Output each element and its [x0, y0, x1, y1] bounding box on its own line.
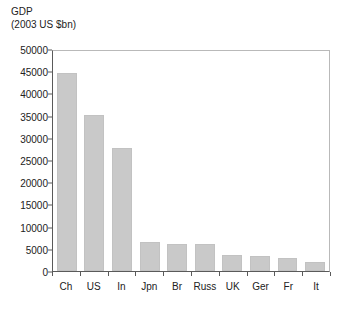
- x-axis-labels: ChUSInJpnBrRussUKGerFrIt: [52, 281, 330, 292]
- bar-russ: [195, 244, 215, 271]
- y-axis-tick-mark: [48, 249, 52, 250]
- page-title: GDP: [11, 5, 76, 18]
- y-axis-tick-mark: [48, 161, 52, 162]
- x-axis-tick-mark: [247, 272, 248, 276]
- y-axis-tick-mark: [48, 116, 52, 117]
- x-axis-tick-mark: [80, 272, 81, 276]
- bar-in: [112, 148, 132, 271]
- chart-subtitle: (2003 US $bn): [11, 18, 76, 31]
- y-axis-tick-label: 30000: [4, 133, 48, 144]
- bar-slot: [219, 51, 247, 271]
- plot-area: [52, 50, 330, 272]
- bar-ger: [250, 256, 270, 271]
- x-axis-tick-label: Fr: [274, 281, 302, 292]
- x-axis-tick-label: Ger: [247, 281, 275, 292]
- x-axis-tick-mark: [191, 272, 192, 276]
- y-axis-tick-mark: [48, 205, 52, 206]
- y-axis-tick-label: 15000: [4, 200, 48, 211]
- bar-ch: [57, 73, 77, 271]
- y-axis-tick-label: 20000: [4, 178, 48, 189]
- gdp-bar-chart-figure: GDP (2003 US $bn) ChUSInJpnBrRussUKGerFr…: [0, 0, 343, 310]
- y-axis-tick-mark: [48, 183, 52, 184]
- x-axis-tick-mark: [219, 272, 220, 276]
- x-axis-tick-label: In: [108, 281, 136, 292]
- x-axis-tick-mark: [163, 272, 164, 276]
- x-axis-tick-mark: [274, 272, 275, 276]
- bar-slot: [53, 51, 81, 271]
- bar-slot: [274, 51, 302, 271]
- y-axis-tick-label: 0: [4, 267, 48, 278]
- bar-slot: [246, 51, 274, 271]
- x-axis-tick-mark: [330, 272, 331, 276]
- bar-uk: [222, 255, 242, 271]
- bar-it: [305, 262, 325, 271]
- bar-slot: [163, 51, 191, 271]
- bar-series: [53, 51, 329, 271]
- x-axis-tick-label: Ch: [52, 281, 80, 292]
- chart-title-block: GDP (2003 US $bn): [11, 5, 76, 31]
- bar-br: [167, 244, 187, 271]
- y-axis-tick-label: 5000: [4, 244, 48, 255]
- bar-us: [84, 115, 104, 271]
- bar-fr: [278, 258, 298, 271]
- y-axis-tick-label: 35000: [4, 111, 48, 122]
- bar-slot: [191, 51, 219, 271]
- bar-slot: [301, 51, 329, 271]
- y-axis-tick-label: 45000: [4, 67, 48, 78]
- x-axis-tick-mark: [108, 272, 109, 276]
- x-axis-tick-label: US: [80, 281, 108, 292]
- y-axis-tick-mark: [48, 227, 52, 228]
- bar-jpn: [140, 242, 160, 271]
- x-axis-tick-label: Jpn: [135, 281, 163, 292]
- y-axis-tick-mark: [48, 72, 52, 73]
- y-axis-tick-label: 50000: [4, 45, 48, 56]
- x-axis-tick-label: Russ: [191, 281, 219, 292]
- x-axis-tick-label: Br: [163, 281, 191, 292]
- x-axis-tick-mark: [135, 272, 136, 276]
- x-axis-tick-label: UK: [219, 281, 247, 292]
- x-axis-tick-label: It: [302, 281, 330, 292]
- x-axis-tick-mark: [302, 272, 303, 276]
- y-axis-tick-label: 10000: [4, 222, 48, 233]
- y-axis-tick-label: 25000: [4, 156, 48, 167]
- y-axis-tick-mark: [48, 138, 52, 139]
- y-axis-tick-mark: [48, 94, 52, 95]
- y-axis-tick-label: 40000: [4, 89, 48, 100]
- y-axis-tick-mark: [48, 50, 52, 51]
- bar-slot: [136, 51, 164, 271]
- bar-slot: [81, 51, 109, 271]
- x-axis-tick-mark: [52, 272, 53, 276]
- bar-slot: [108, 51, 136, 271]
